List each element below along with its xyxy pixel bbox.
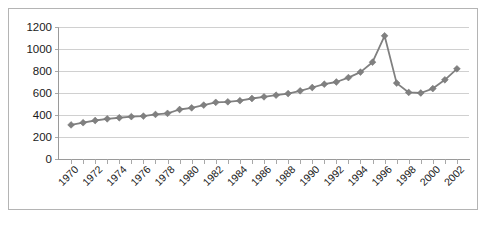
x-tick-label: 1998 [393,163,418,188]
data-point-marker [152,111,159,118]
y-tick-label: 800 [33,65,52,77]
data-point-marker [104,115,111,122]
y-tick-label: 600 [33,87,52,99]
data-point-marker [224,98,231,105]
x-tick-label: 1980 [176,163,201,188]
x-tick-label: 1992 [321,163,346,188]
data-point-marker [381,32,388,39]
x-tick-label: 1978 [152,163,177,188]
data-point-marker [236,97,243,104]
data-point-marker [261,93,268,100]
chart-figure: 020040060080010001200 197019721974197619… [0,0,498,227]
caption-strip [0,216,498,227]
data-point-marker [321,81,328,88]
data-point-marker [417,90,424,97]
x-tick-label: 1994 [345,163,370,188]
x-tick-label: 1984 [224,163,249,188]
y-tick-label: 1200 [26,21,52,33]
x-tick-label: 2002 [441,163,466,188]
x-tick-label: 1976 [128,163,153,188]
data-point-marker [345,74,352,81]
x-tick-label: 1990 [297,163,322,188]
data-point-marker [333,79,340,86]
y-axis-tick-labels: 020040060080010001200 [26,21,52,165]
data-point-marker [80,119,87,126]
data-point-marker [176,106,183,113]
x-tick-label: 1986 [248,163,273,188]
data-point-marker [128,113,135,120]
line-chart: 020040060080010001200 197019721974197619… [9,9,477,209]
x-tick-label: 2000 [417,163,442,188]
data-point-marker [285,90,292,97]
data-point-marker [273,92,280,99]
y-tick-label: 200 [33,131,52,143]
x-tick-label: 1974 [104,163,129,188]
x-tick-label: 1982 [200,163,225,188]
y-tick-label: 0 [46,153,52,165]
data-point-marker [92,117,99,124]
x-tick-label: 1996 [369,163,394,188]
x-tick-label: 1970 [56,163,81,188]
data-series [68,32,461,128]
data-point-marker [212,99,219,106]
data-point-marker [249,95,256,102]
data-point-marker [188,104,195,111]
x-tick-label: 1988 [273,163,298,188]
data-point-marker [140,113,147,120]
chart-plot-frame: 020040060080010001200 197019721974197619… [8,8,478,210]
x-tick-label: 1972 [80,163,105,188]
series-markers [68,32,461,128]
data-point-marker [68,122,75,129]
data-point-marker [309,84,316,91]
x-axis-tick-labels: 1970197219741976197819801982198419861988… [56,163,467,188]
data-point-marker [200,102,207,109]
y-tick-label: 1000 [26,43,52,55]
y-tick-label: 400 [33,109,52,121]
